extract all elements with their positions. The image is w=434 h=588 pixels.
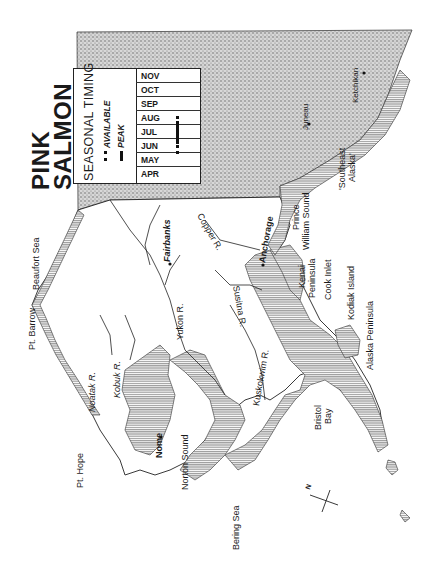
peak-bar: [176, 122, 179, 144]
available-key: AVAILABLE: [102, 101, 112, 161]
legend-heading: SEASONAL TIMING: [82, 63, 96, 181]
ketchikan-dot: [362, 71, 365, 74]
label-cook-inlet: Cook Inlet: [324, 259, 333, 300]
label-bristol-2: Bay: [324, 408, 333, 424]
label-kobuk-r: Kobuk R.: [113, 361, 122, 398]
label-fairbanks: Fairbanks: [163, 219, 172, 262]
month-row: APR: [136, 167, 200, 181]
month-row: NOV: [136, 69, 200, 83]
anchorage-dot: [261, 263, 264, 266]
solid-line-icon: [120, 151, 123, 161]
legend-key-panel: SEASONAL TIMING AVAILABLE PEAK: [74, 69, 137, 183]
aleutian-islands: [386, 460, 410, 522]
month-row: SEP: [136, 97, 200, 111]
label-pt-hope: Pt. Hope: [76, 453, 85, 488]
label-kenai-2: Peninsula: [308, 258, 317, 298]
month-row: OCT: [136, 83, 200, 97]
label-southeast-2: Alaska': [348, 153, 357, 182]
month-row: JUN: [136, 139, 200, 153]
label-kenai-1: Kenai: [298, 265, 307, 288]
north-arrow: [310, 490, 338, 512]
label-ketchikan: Ketchikan: [352, 68, 360, 103]
label-alaska-peninsula: Alaska Peninsula: [366, 301, 375, 370]
label-norton-sound: Norton Sound: [181, 434, 190, 490]
label-pt-barrow: Pt. Barrow: [28, 308, 37, 350]
fairbanks-dot: [168, 262, 171, 265]
label-kodiak-island: Kodiak Island: [347, 266, 356, 320]
label-nome: Nome: [155, 433, 164, 458]
label-prince-william-2: William Sound: [302, 192, 311, 250]
label-bristol-1: Bristol: [314, 405, 323, 430]
label-yukon-r: Yukon R.: [176, 303, 185, 340]
label-prince-william-1: Prince: [292, 204, 301, 230]
label-bering-sea: Bering Sea: [232, 505, 241, 550]
month-row: JUL: [136, 125, 200, 139]
month-list: NOV OCT SEP AUG JUL JUN MAY APR: [136, 69, 200, 183]
label-southeast-1: 'Southeast: [338, 148, 347, 190]
label-noatak-r: Noatak R.: [88, 372, 97, 412]
peak-key: PEAK: [116, 124, 126, 161]
month-row: AUG: [136, 111, 200, 125]
dotted-line-icon: [104, 151, 110, 161]
map-title: PINK SALMON: [30, 83, 74, 190]
label-beaufort-sea: Beaufort Sea: [32, 237, 41, 290]
month-row: MAY: [136, 153, 200, 167]
label-juneau: Juneau: [302, 104, 310, 130]
